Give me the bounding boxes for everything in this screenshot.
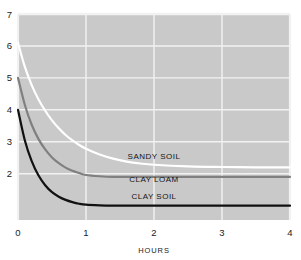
x-axis-tick-labels: 01234	[15, 227, 292, 238]
y-axis-tick-labels: 234567	[7, 9, 12, 180]
x-tick-label: 0	[15, 227, 20, 238]
series-inline-labels: SANDY SOILCLAY LOAMCLAY SOIL	[128, 152, 181, 200]
x-tick-label: 3	[219, 227, 224, 238]
chart-canvas: 234567 01234 SANDY SOILCLAY LOAMCLAY SOI…	[0, 0, 301, 260]
series-label-clay-loam: CLAY LOAM	[129, 175, 179, 184]
y-tick-label: 4	[7, 104, 12, 115]
series-label-clay-soil: CLAY SOIL	[131, 192, 176, 201]
y-tick-label: 6	[7, 40, 12, 51]
y-tick-label: 7	[7, 9, 12, 20]
y-tick-label: 2	[7, 168, 12, 179]
x-tick-label: 1	[83, 227, 88, 238]
x-tick-label: 2	[151, 227, 156, 238]
y-tick-label: 3	[7, 136, 12, 147]
y-tick-label: 5	[7, 72, 12, 83]
series-label-sandy-soil: SANDY SOIL	[128, 152, 181, 161]
x-axis-title: HOURS	[138, 246, 170, 255]
infiltration-rate-chart: 234567 01234 SANDY SOILCLAY LOAMCLAY SOI…	[0, 0, 301, 260]
x-tick-label: 4	[287, 227, 292, 238]
